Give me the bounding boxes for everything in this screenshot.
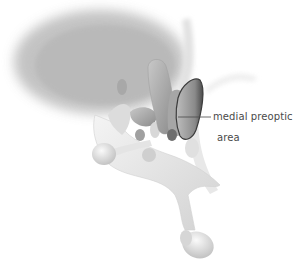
label-medial-preoptic-line2: area [217,133,240,143]
hypothalamus-diagram: medial preoptic area [0,0,303,274]
anatomy-illustration [0,0,303,274]
pituitary-gland [179,227,218,262]
label-medial-preoptic-line1: medial preoptic [213,112,293,122]
mammillary-body [92,143,116,165]
